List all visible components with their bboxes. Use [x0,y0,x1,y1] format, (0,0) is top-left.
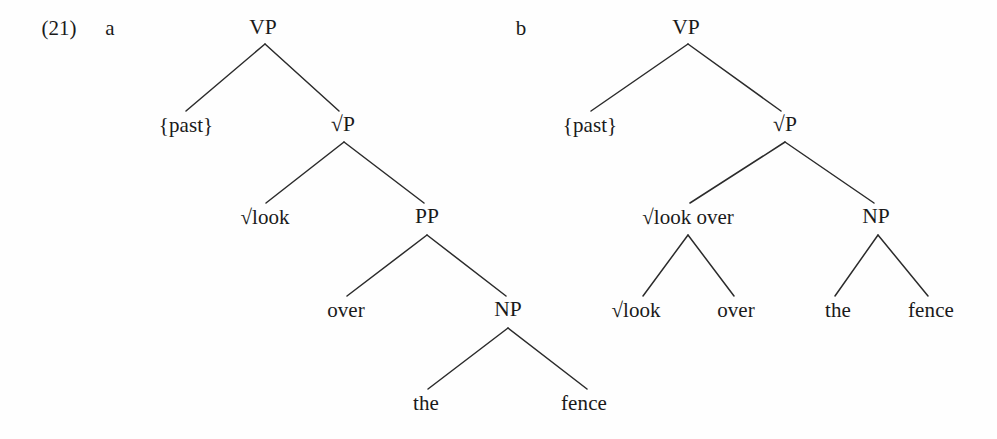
tree-a-node-past: {past} [159,115,214,136]
tree-a-node-the: the [413,393,439,414]
tree-b-node-root-look-over: √look over [642,207,733,228]
tree-a-node-root-p: √P [331,114,355,136]
tree-a-node-root-look: √look [241,207,290,228]
tree-a-node-fence: fence [561,393,607,414]
page-background [0,0,997,439]
subexample-label-a: a [105,18,114,39]
tree-a-node-np: NP [494,299,522,321]
tree-b-node-over: over [717,300,755,321]
subexample-label-b: b [516,18,527,39]
tree-b-node-np: NP [862,206,890,228]
tree-b-node-fence: fence [908,300,954,321]
tree-b-node-past: {past} [563,115,618,136]
tree-a-node-pp: PP [415,206,439,228]
tree-b-node-root-look: √look [612,300,661,321]
tree-b-node-root-p: √P [773,114,797,136]
example-number: (21) [42,18,77,39]
tree-a-node-vp: VP [249,17,277,39]
tree-b-node-vp: VP [672,17,700,39]
tree-b-node-the: the [825,300,851,321]
tree-a-node-over: over [327,300,365,321]
